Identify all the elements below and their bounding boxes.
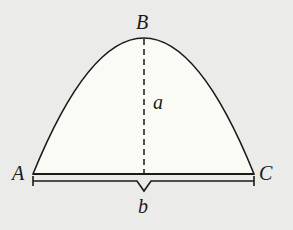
label-base-b: b (138, 195, 148, 217)
label-c-vertex: C (259, 162, 273, 184)
parabola-diagram: A B C a b (0, 0, 293, 230)
label-a-vertex: A (10, 162, 25, 184)
label-b-vertex: B (136, 11, 148, 33)
label-height-a: a (153, 91, 163, 113)
base-brace (33, 176, 254, 191)
